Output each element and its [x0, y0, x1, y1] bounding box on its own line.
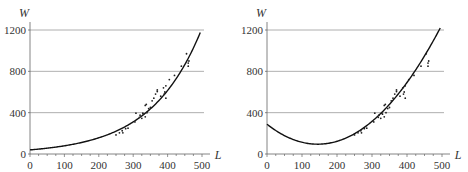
data-point [373, 121, 375, 123]
data-point [125, 128, 127, 130]
data-point [165, 97, 167, 99]
data-point [155, 93, 157, 95]
data-point [160, 95, 162, 97]
x-tick-label: 200 [91, 159, 108, 171]
data-point [384, 104, 386, 106]
y-tick-label: 0 [21, 148, 27, 160]
y-tick-label: 1200 [241, 24, 264, 36]
y-axis-label: W [256, 6, 267, 20]
data-point [357, 132, 359, 134]
fit-curve [267, 28, 440, 144]
data-point [420, 65, 422, 67]
data-point [146, 112, 148, 114]
data-point [360, 130, 362, 132]
x-tick-label: 200 [329, 159, 346, 171]
x-tick-label: 500 [434, 159, 451, 171]
data-point [121, 130, 123, 132]
data-point [354, 134, 356, 136]
y-tick-label: 800 [247, 65, 264, 77]
y-tick-label: 1200 [4, 24, 27, 36]
data-point [180, 65, 182, 67]
data-point [404, 85, 406, 87]
x-tick-label: 100 [294, 159, 311, 171]
data-point [138, 116, 140, 118]
data-point [144, 116, 146, 118]
x-axis-label: L [454, 148, 462, 162]
data-point [387, 108, 389, 110]
data-point [363, 128, 365, 130]
data-point [377, 116, 379, 118]
data-point [141, 117, 143, 119]
x-tick-label: 400 [399, 159, 416, 171]
data-point [174, 75, 176, 77]
data-point [394, 93, 396, 95]
data-point [403, 91, 405, 93]
data-point [383, 116, 385, 118]
data-point [396, 91, 398, 93]
data-point [135, 112, 137, 114]
x-axis-label: L [214, 148, 222, 162]
plot-left-exponential-fit: 040080012000100200300400500WL [4, 6, 222, 171]
data-point [164, 91, 166, 93]
data-point [151, 100, 153, 102]
data-point [404, 97, 406, 99]
data-point [389, 107, 391, 109]
data-point [361, 132, 363, 134]
data-point [139, 114, 141, 116]
data-point [119, 132, 121, 134]
plot-right-quadratic-fit: 040080012000100200300400500WL [241, 6, 462, 171]
data-point [165, 85, 167, 87]
chart-canvas: 040080012000100200300400500WL 0400800120… [0, 0, 468, 172]
data-point [143, 113, 145, 115]
data-point [168, 79, 170, 81]
data-point [396, 89, 398, 91]
fit-curve [30, 33, 200, 150]
data-point [163, 87, 165, 89]
data-point [156, 89, 158, 91]
data-point [382, 113, 384, 115]
data-point [403, 93, 405, 95]
data-point [150, 107, 152, 109]
data-point [390, 100, 392, 102]
data-point [425, 53, 427, 55]
data-point [186, 53, 188, 55]
x-tick-label: 300 [125, 159, 142, 171]
data-point [148, 108, 150, 110]
data-point [413, 75, 415, 77]
y-tick-label: 400 [247, 107, 264, 119]
data-point [187, 65, 189, 67]
data-point [399, 95, 401, 97]
y-tick-label: 0 [258, 148, 264, 160]
x-tick-label: 0 [264, 159, 270, 171]
data-point [385, 112, 387, 114]
data-point [156, 91, 158, 93]
data-point [392, 97, 394, 99]
y-axis-label: W [19, 6, 30, 20]
y-tick-label: 800 [10, 65, 27, 77]
data-point [374, 112, 376, 114]
data-point [145, 104, 147, 106]
x-tick-label: 100 [56, 159, 73, 171]
data-point [134, 121, 136, 123]
data-point [188, 60, 190, 62]
data-point [122, 132, 124, 134]
data-point [378, 114, 380, 116]
x-tick-label: 400 [159, 159, 176, 171]
data-point [402, 87, 404, 89]
data-point [187, 62, 189, 64]
x-tick-label: 300 [364, 159, 381, 171]
data-point [380, 117, 382, 119]
data-point [115, 134, 117, 136]
data-point [127, 127, 129, 129]
data-point [163, 93, 165, 95]
data-point [153, 97, 155, 99]
data-point [428, 60, 430, 62]
x-tick-label: 0 [27, 159, 33, 171]
data-point [408, 79, 410, 81]
y-tick-label: 400 [10, 107, 27, 119]
x-tick-label: 500 [194, 159, 211, 171]
data-point [366, 127, 368, 129]
data-point [427, 65, 429, 67]
data-point [427, 62, 429, 64]
